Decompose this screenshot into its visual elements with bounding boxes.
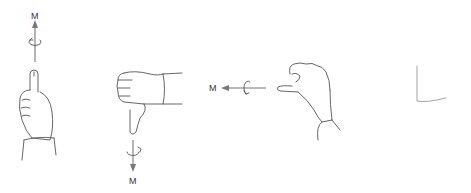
panel-thumb-up: M xyxy=(19,11,56,160)
partial-figure-edge xyxy=(417,66,446,102)
moment-label-down: M xyxy=(129,176,137,186)
arrow-down-icon xyxy=(130,140,136,172)
rotation-circle-icon xyxy=(127,147,141,156)
moment-label-up: M xyxy=(31,11,39,21)
hand-thumb-up-icon xyxy=(19,70,56,160)
hand-thumb-left-icon xyxy=(277,63,340,140)
panel-thumb-left: M xyxy=(209,63,340,140)
hand-thumb-down-icon xyxy=(117,72,182,134)
arrow-up-icon xyxy=(32,20,38,62)
moment-label-left: M xyxy=(209,83,217,93)
arrow-left-icon xyxy=(221,85,266,91)
right-hand-rule-figure: M xyxy=(0,0,471,193)
panel-thumb-down: M xyxy=(117,72,182,186)
